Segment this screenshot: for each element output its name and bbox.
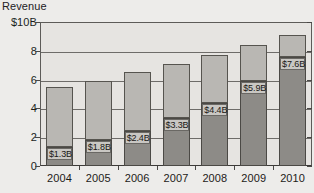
- x-axis-tick-label: 2007: [157, 172, 196, 184]
- x-axis-tick-label: 2010: [273, 172, 312, 184]
- bar-segment-upper[interactable]: [85, 81, 112, 140]
- x-axis-tick-label: 2004: [40, 172, 79, 184]
- y-axis-tick-mark-right: [307, 137, 312, 138]
- bar-segment-lower[interactable]: [279, 57, 306, 166]
- bar-segment-upper[interactable]: [201, 55, 228, 103]
- y-axis-tick-mark-right: [307, 166, 312, 167]
- x-axis-tick-label: 2005: [79, 172, 118, 184]
- y-axis-tick-mark: [35, 166, 40, 167]
- bar-segment-upper[interactable]: [163, 64, 190, 119]
- bar-segment-upper[interactable]: [46, 87, 73, 147]
- x-axis-tick-mark: [195, 166, 196, 170]
- y-axis-tick-mark-right: [307, 22, 312, 23]
- revenue-stacked-bar-chart: Revenue $10B86420 $1.3B$1.8B$2.4B$3.3B$4…: [0, 0, 314, 193]
- bar-segment-upper[interactable]: [279, 35, 306, 57]
- bar-value-label: $5.9B: [241, 82, 266, 94]
- x-axis-tick-label: 2008: [195, 172, 234, 184]
- y-axis-tick-mark: [35, 22, 40, 23]
- x-axis-tick-mark: [273, 166, 274, 170]
- bar-value-label: $1.3B: [47, 148, 72, 160]
- y-axis-tick-mark-right: [307, 80, 312, 81]
- y-axis-tick-mark-right: [307, 51, 312, 52]
- y-axis-tick-mark-right: [307, 108, 312, 109]
- y-axis-tick-mark: [35, 51, 40, 52]
- y-axis-tick-label: $10B: [11, 16, 37, 28]
- y-axis-tick-mark: [35, 137, 40, 138]
- bar-2007[interactable]: [163, 22, 190, 166]
- x-axis-tick-mark: [118, 166, 119, 170]
- bar-value-label: $2.4B: [125, 132, 150, 144]
- y-axis-title: Revenue: [2, 0, 47, 12]
- bar-value-label: $7.6B: [280, 58, 305, 70]
- x-axis-tick-label: 2009: [234, 172, 273, 184]
- x-axis-tick-label: 2006: [118, 172, 157, 184]
- bar-value-label: $1.8B: [86, 141, 111, 153]
- bar-value-label: $3.3B: [164, 119, 189, 131]
- bar-2010[interactable]: [279, 22, 306, 166]
- x-axis-tick-mark: [79, 166, 80, 170]
- bar-value-label: $4.4B: [202, 104, 227, 116]
- bar-2004[interactable]: [46, 22, 73, 166]
- y-axis-tick-mark: [35, 108, 40, 109]
- x-axis-tick-mark: [157, 166, 158, 170]
- bar-2008[interactable]: [201, 22, 228, 166]
- x-axis-tick-mark: [234, 166, 235, 170]
- bar-segment-upper[interactable]: [240, 45, 267, 81]
- y-axis-tick-mark: [35, 80, 40, 81]
- bar-segment-upper[interactable]: [124, 72, 151, 131]
